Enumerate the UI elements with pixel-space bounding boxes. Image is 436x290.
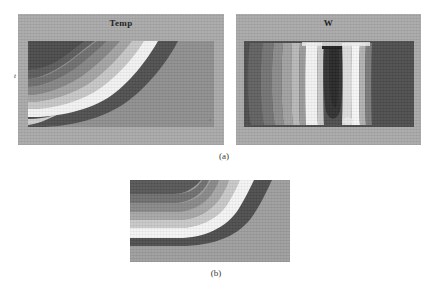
panel-w: W [236, 14, 421, 145]
detail-contour-svg [130, 180, 290, 262]
panel-temp-contour [28, 41, 214, 127]
w-contour-svg [244, 41, 414, 127]
caption-a: (a) [204, 151, 244, 161]
panel-temp: Temp [18, 14, 224, 145]
temp-axis-label-t: t [14, 72, 16, 80]
panel-detail [130, 180, 290, 262]
panel-temp-title: Temp [18, 18, 224, 29]
temp-contour-svg [28, 41, 214, 127]
panel-w-contour [244, 41, 414, 127]
panel-w-title: W [236, 18, 421, 29]
caption-b: (b) [196, 268, 236, 278]
temp-axis-label-z: z [209, 117, 211, 122]
figure-root: Temp [0, 0, 436, 290]
